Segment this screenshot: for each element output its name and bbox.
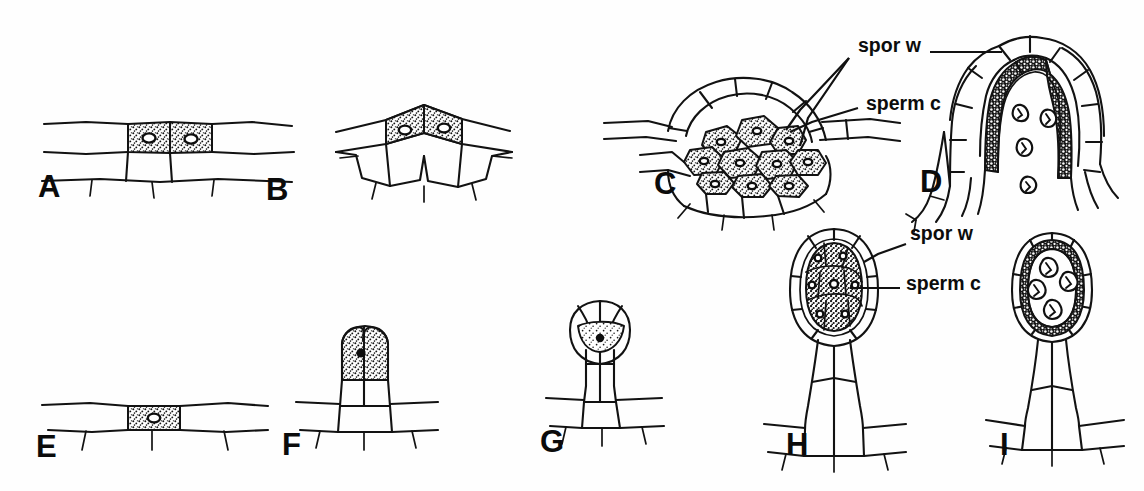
callout-spor-w-top: spor w	[858, 34, 922, 56]
panel-letter-a: A	[38, 169, 60, 204]
illustration-svg: A B	[0, 0, 1144, 491]
panel-c-drawing	[604, 58, 900, 230]
figure-canvas: A B	[0, 0, 1144, 491]
panel-b-drawing	[336, 105, 512, 202]
sperm-cells-d	[1013, 105, 1057, 193]
panel-a-drawing	[42, 122, 294, 198]
panel-letter-i: I	[1000, 427, 1009, 462]
panel-letter-h: H	[786, 427, 808, 462]
panel-letter-f: F	[282, 427, 301, 462]
panel-letter-d: D	[920, 164, 942, 199]
callout-spor-w-bottom: spor w	[910, 222, 974, 244]
panel-letter-e: E	[36, 429, 57, 464]
callout-sperm-c-top: sperm c	[866, 92, 941, 114]
panel-letter-c: C	[654, 166, 676, 201]
panel-letter-b: B	[266, 172, 288, 207]
callout-sperm-c-bottom: sperm c	[906, 272, 981, 294]
sperm-cells-i	[1028, 258, 1078, 319]
panel-letter-g: G	[540, 424, 564, 459]
panel-d-drawing	[906, 36, 1118, 232]
panel-f-drawing	[296, 326, 438, 450]
panel-e-drawing	[42, 403, 268, 450]
